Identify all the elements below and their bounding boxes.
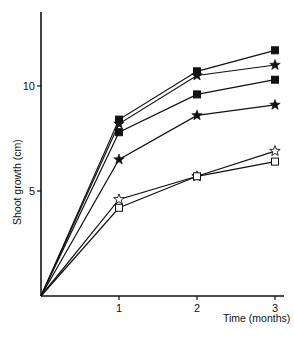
filled-square-marker-icon bbox=[272, 47, 279, 54]
series-line bbox=[41, 105, 275, 296]
open-star-marker-icon bbox=[270, 146, 280, 156]
filled-star-marker-icon bbox=[114, 154, 124, 164]
filled-square-marker-icon bbox=[194, 91, 201, 98]
filled-star-marker-icon bbox=[270, 60, 280, 70]
series-line bbox=[41, 50, 275, 296]
x-tick-label: 1 bbox=[116, 302, 122, 314]
open-square-marker-icon bbox=[194, 173, 201, 180]
open-square-marker-icon bbox=[116, 204, 123, 211]
y-tick-label: 5 bbox=[29, 185, 35, 197]
data-series bbox=[41, 47, 280, 296]
y-tick-label: 10 bbox=[23, 80, 35, 92]
series-filled-star-b bbox=[41, 99, 280, 296]
open-square-marker-icon bbox=[272, 158, 279, 165]
filled-square-marker-icon bbox=[116, 129, 123, 136]
series-filled-star-a bbox=[41, 60, 280, 297]
open-star-marker-icon bbox=[114, 194, 124, 204]
axes: 510 123 Shoot growth (cm) Time (months) bbox=[11, 12, 290, 324]
series-open-square bbox=[41, 158, 279, 296]
shoot-growth-chart: 510 123 Shoot growth (cm) Time (months) bbox=[0, 0, 294, 339]
filled-star-marker-icon bbox=[192, 110, 202, 120]
series-line bbox=[41, 162, 275, 296]
x-axis-title: Time (months) bbox=[223, 312, 290, 324]
y-ticks: 510 bbox=[23, 80, 41, 197]
filled-square-marker-icon bbox=[272, 76, 279, 83]
y-axis-title: Shoot growth (cm) bbox=[11, 139, 23, 225]
series-filled-square-a bbox=[41, 47, 279, 296]
x-tick-label: 2 bbox=[194, 302, 200, 314]
series-line bbox=[41, 65, 275, 296]
filled-star-marker-icon bbox=[270, 99, 280, 109]
